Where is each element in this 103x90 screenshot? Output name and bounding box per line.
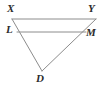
segment-group: [12, 19, 96, 71]
geometry-figure: X Y L M D: [0, 0, 103, 90]
vertex-label-y: Y: [88, 3, 95, 14]
vertex-label-m: M: [86, 27, 96, 38]
vertex-label-x: X: [7, 3, 14, 14]
segment-xd: [12, 19, 42, 71]
vertex-label-d: D: [36, 73, 44, 84]
vertex-label-l: L: [6, 24, 13, 35]
